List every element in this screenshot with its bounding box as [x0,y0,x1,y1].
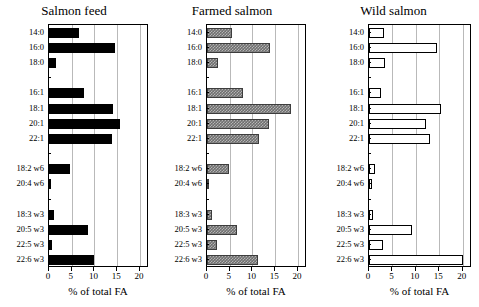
y-axis-label: 20:1 [158,118,202,127]
y-tick [48,32,51,33]
y-tick [206,229,209,230]
y-tick [368,244,371,245]
bar [369,179,372,189]
panel-1: Salmon feed14:016:018:016:118:120:122:11… [0,0,160,307]
y-axis-label: 14:0 [0,27,44,36]
y-tick [48,153,51,154]
y-tick [368,47,371,48]
x-tick-label: 10 [410,272,419,281]
plot-area [368,24,471,267]
y-tick [206,138,209,139]
y-tick [206,183,209,184]
bar [49,240,52,250]
y-tick [368,259,371,260]
y-tick [368,108,371,109]
y-tick [368,199,371,200]
bar [207,179,209,189]
bar [369,104,441,114]
bar [207,240,217,250]
bar [207,88,243,98]
bar [49,104,113,114]
y-tick [368,168,371,169]
gridline-10 [252,25,253,266]
x-tick-label: 10 [247,272,256,281]
y-tick [206,153,209,154]
y-tick [48,123,51,124]
y-axis-label: 16:0 [158,43,202,52]
gridline-15 [275,25,276,266]
y-tick [206,47,209,48]
bar [207,119,269,129]
bar [207,225,237,235]
y-tick [48,47,51,48]
bar [207,255,258,265]
bar [207,210,212,220]
bar [207,58,218,68]
gridline-10 [416,25,417,266]
y-axis-label: 18:1 [0,103,44,112]
x-tick-label: 10 [89,272,98,281]
panel-title: Salmon feed [0,0,148,22]
y-axis-label: 16:0 [316,43,364,52]
y-tick [368,62,371,63]
y-axis-label: 20:1 [0,118,44,127]
bar [207,104,291,114]
bar [369,210,373,220]
y-tick [48,62,51,63]
bar [207,43,270,53]
y-tick [368,138,371,139]
bar [49,28,79,38]
x-axis-title: % of total FA [48,285,148,297]
bar [49,255,94,265]
y-tick [206,62,209,63]
x-tick-label: 20 [457,272,466,281]
bar [49,179,51,189]
x-tick-label: 15 [270,272,279,281]
bar [369,58,385,68]
bar [49,88,84,98]
y-tick [48,229,51,230]
y-axis-label: 20:4 w6 [158,179,202,188]
x-tick-label: 15 [112,272,121,281]
fatty-acid-composition-figure: Salmon feed14:016:018:016:118:120:122:11… [0,0,479,307]
gridline-15 [117,25,118,266]
bar [369,28,384,38]
gridline-20 [463,25,464,266]
y-tick [206,214,209,215]
y-tick [206,199,209,200]
bar [49,225,88,235]
y-tick [206,32,209,33]
y-axis-label: 20:5 w3 [0,225,44,234]
y-tick [48,77,51,78]
bar [369,164,375,174]
y-tick [206,108,209,109]
bar [207,134,259,144]
y-axis-label: 20:4 w6 [316,179,364,188]
plot-area [48,24,148,267]
y-axis-label: 18:1 [158,103,202,112]
y-axis-label: 18:0 [0,58,44,67]
y-tick [206,92,209,93]
y-axis-label: 22:5 w3 [316,240,364,249]
y-axis-label: 16:0 [0,43,44,52]
y-tick [206,77,209,78]
bar [369,134,430,144]
y-axis-label: 14:0 [158,27,202,36]
x-tick-label: 15 [434,272,443,281]
y-axis-label: 18:3 w3 [158,210,202,219]
y-tick [48,168,51,169]
y-axis-label: 18:1 [316,103,364,112]
y-tick [368,123,371,124]
bar [49,134,112,144]
y-axis-label: 18:0 [316,58,364,67]
y-axis-label: 18:0 [158,58,202,67]
y-tick [368,32,371,33]
gridline-15 [439,25,440,266]
x-tick-label: 5 [389,272,394,281]
y-axis-label: 20:5 w3 [158,225,202,234]
y-axis-label: 20:1 [316,118,364,127]
y-tick [368,92,371,93]
bar [49,210,54,220]
y-axis-label: 18:2 w6 [0,164,44,173]
bar [369,88,381,98]
